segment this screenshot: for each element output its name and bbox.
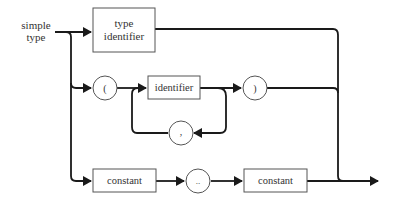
start-label-line1: simple	[21, 19, 50, 31]
identifier-text: identifier	[155, 82, 194, 93]
type-identifier-exit	[155, 29, 343, 181]
type-identifier-line1: type	[115, 17, 134, 29]
trunk-line	[66, 32, 91, 181]
node-open-paren: (	[93, 76, 117, 100]
type-identifier-line2: identifier	[104, 30, 145, 42]
comma-text: ,	[180, 126, 183, 137]
node-constant-1: constant	[93, 169, 156, 192]
node-close-paren: )	[243, 76, 267, 100]
node-constant-2: constant	[244, 169, 307, 192]
constant-1-text: constant	[107, 175, 142, 186]
constant-2-text: constant	[258, 175, 293, 186]
branch-to-paren	[71, 83, 91, 88]
start-label-line2: type	[27, 31, 46, 43]
syntax-diagram-simple-type: simple type type identifier (	[0, 0, 401, 203]
node-identifier: identifier	[148, 76, 200, 99]
node-range-dots: ..	[186, 169, 210, 193]
close-paren-exit	[267, 88, 338, 93]
node-type-identifier: type identifier	[93, 8, 155, 52]
range-dots-text: ..	[196, 176, 201, 186]
node-comma: ,	[169, 121, 193, 145]
close-paren-text: )	[253, 83, 256, 95]
